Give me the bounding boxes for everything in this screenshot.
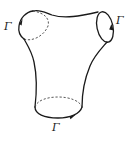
pair-of-pants-diagram: Γ Γ Γ [0,0,133,141]
top-right-boundary [94,10,116,44]
bottom-boundary-back [35,97,82,107]
left-side-contour [24,39,36,107]
top-left-boundary-back [24,11,48,40]
top-edge [33,10,98,16]
label-bottom: Γ [51,121,60,134]
right-side-contour [82,42,107,107]
label-top-left: Γ [3,20,12,33]
top-left-boundary-front [19,11,33,39]
bottom-boundary-front [35,107,82,118]
label-top-right: Γ [115,14,124,27]
